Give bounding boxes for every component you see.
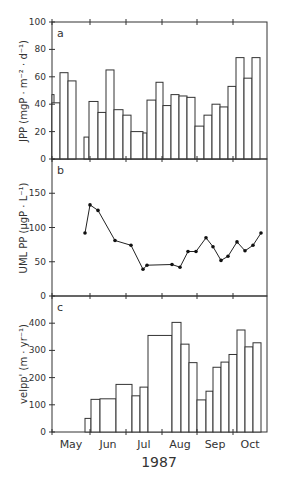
panel-c-bars [85,322,261,432]
panel-b-yticks: 050100150 [29,188,55,301]
data-point [259,231,263,235]
bar [123,115,131,159]
data-point [141,267,145,271]
bar [148,335,172,432]
bar [181,344,189,432]
month-label-jul: Jul [136,438,150,451]
panel-b-ylabel: UML PP (μgP · L⁻¹) [18,182,29,273]
month-label-may: May [60,438,83,451]
data-point [113,239,117,243]
bar [147,100,156,159]
bar [98,112,106,159]
month-label-jun: Jun [98,438,116,451]
y-tick-label: 50 [35,257,47,267]
panel-b-frame [52,159,267,296]
y-tick-label: 150 [29,188,46,198]
month-ticks [52,19,233,435]
panel-a-label: a [57,27,64,40]
y-tick-label: 20 [35,127,47,137]
y-tick-label: 100 [29,223,46,233]
y-tick-label: 300 [29,345,46,355]
bar [163,106,171,159]
bar [229,354,237,432]
data-point [83,231,87,235]
month-label-sep: Sep [205,438,226,451]
bar [220,107,228,159]
bar [237,330,245,432]
bar [253,343,261,432]
panel-a-bars [52,58,260,159]
data-point [219,259,223,263]
data-point [251,244,255,248]
bar [228,86,236,159]
data-point [178,265,182,269]
bar [179,96,187,159]
data-point [145,263,149,267]
bar [197,400,206,432]
panel-c-label: c [57,301,63,314]
month-label-aug: Aug [169,438,190,451]
bar [195,126,204,159]
data-point [235,240,239,244]
y-tick-label: 200 [29,373,46,383]
y-tick-label: 80 [35,44,47,54]
panel-b: 050100150 b UML PP (μgP · L⁻¹) [18,159,267,301]
bar [189,363,197,432]
bar [187,97,195,159]
bar [252,58,260,159]
bar [156,82,163,159]
data-point [243,249,247,253]
bar [100,399,116,432]
figure: 020406080100 a JPP (mgP · m⁻² · d⁻¹) 050… [0,0,282,478]
panel-b-line [83,203,263,271]
data-point [226,254,230,258]
y-tick-label: 0 [40,427,46,437]
data-point [211,245,215,249]
bar [91,399,100,432]
bar [245,347,253,432]
y-tick-label: 60 [35,72,47,82]
data-point [129,244,133,248]
y-tick-label: 400 [29,318,46,328]
bar [171,95,179,159]
data-point [204,236,208,240]
year-label: 1987 [141,454,177,470]
bar [131,132,143,159]
bar [68,81,76,159]
bar [132,396,140,432]
bar [106,70,114,159]
panel-a-yticks: 020406080100 [29,17,55,164]
bar [140,387,148,432]
bar [89,101,98,159]
panel-a-ylabel: JPP (mgP · m⁻² · d⁻¹) [18,40,29,143]
bar [244,78,252,159]
bar [114,110,123,159]
y-tick-label: 100 [29,17,46,27]
bar [172,322,181,432]
panel-c-ylabel: velpp' (m · yr⁻¹) [18,324,29,404]
panel-c: 0100200300400 c velpp' (m · yr⁻¹) [18,296,267,437]
bar [221,362,229,432]
bar [236,58,244,159]
bar [143,133,147,159]
y-tick-label: 40 [35,99,47,109]
panel-c-yticks: 0100200300400 [29,318,55,437]
panel-a: 020406080100 a JPP (mgP · m⁻² · d⁻¹) [18,17,267,164]
bar [213,367,221,432]
bar [204,115,212,159]
bar [116,384,132,432]
series-line [85,205,261,269]
data-point [194,250,198,254]
panel-b-label: b [57,164,64,177]
data-point [186,250,190,254]
y-tick-label: 0 [40,291,46,301]
bar [212,104,220,159]
data-point [96,209,100,213]
data-point [88,203,92,207]
y-tick-label: 100 [29,400,46,410]
bar [52,103,60,159]
bar [84,137,89,159]
data-point [170,263,174,267]
y-tick-label: 0 [40,154,46,164]
bar [60,73,68,159]
